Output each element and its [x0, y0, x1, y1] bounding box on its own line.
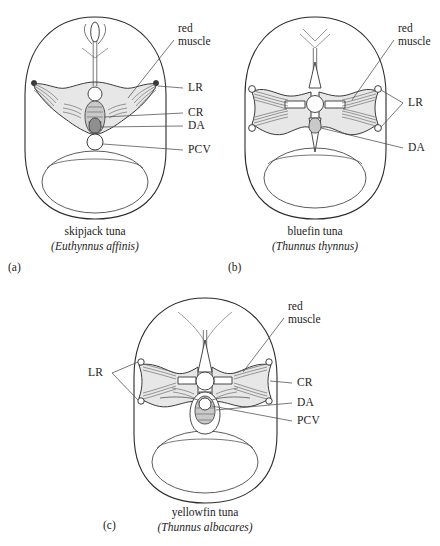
dorsal-aorta-b: [309, 118, 321, 133]
gut-cavity-c: [152, 431, 258, 493]
label-pcv-a: PCV: [188, 143, 211, 156]
panel-b-drawing: [245, 17, 403, 219]
panel-letter-c: (c): [103, 519, 116, 531]
dorsal-canal-a: [91, 22, 100, 42]
label-red-muscle-b: red muscle: [398, 22, 431, 48]
label-cr-c: CR: [297, 376, 313, 389]
panel-c-drawing: [112, 298, 292, 503]
panel-a-drawing: [25, 17, 183, 219]
panel-letter-a: (a): [8, 261, 21, 273]
label-red-muscle-a: red muscle: [178, 22, 211, 48]
label-da-c: DA: [297, 396, 314, 409]
label-da-a: DA: [188, 119, 205, 132]
label-da-b: DA: [408, 141, 425, 154]
lateral-process-right-b: [325, 101, 345, 108]
label-cr-a: CR: [188, 106, 204, 119]
label-red-muscle-c: red muscle: [288, 300, 321, 326]
lateral-process-left-b: [285, 101, 305, 108]
gut-cavity-b: [264, 148, 366, 208]
panel-letter-b: (b): [228, 261, 241, 273]
vertebral-canal-a: [88, 87, 102, 101]
figure-drawing: [0, 0, 440, 546]
label-pcv-c: PCV: [297, 414, 320, 427]
caption-scientific-name-b: (Thunnus thynnus): [240, 239, 390, 254]
caption-panel-a: skipjack tuna (Euthynnus affinis): [20, 224, 170, 253]
dorsal-aorta-a: [89, 118, 101, 133]
caption-scientific-name-a: (Euthynnus affinis): [20, 239, 170, 254]
lateral-process-right-c: [214, 377, 232, 384]
postcardinal-vein-c: [199, 398, 211, 410]
lateral-process-left-c: [178, 377, 196, 384]
vertebral-canal-b: [307, 96, 324, 113]
caption-common-name-b: bluefin tuna: [240, 224, 390, 239]
gut-cavity-a: [42, 151, 148, 213]
postcardinal-vein-a: [87, 134, 103, 150]
caption-common-name-a: skipjack tuna: [20, 224, 170, 239]
caption-common-name-c: yellowfin tuna: [130, 505, 280, 520]
caption-panel-b: bluefin tuna (Thunnus thynnus): [240, 224, 390, 253]
caption-scientific-name-c: (Thunnus albacares): [130, 520, 280, 535]
caption-panel-c: yellowfin tuna (Thunnus albacares): [130, 505, 280, 534]
label-lr-b: LR: [408, 96, 423, 109]
figure-root: red muscle LR CR DA PCV skipjack tuna (E…: [0, 0, 440, 546]
label-lr-c: LR: [88, 366, 103, 379]
label-lr-a: LR: [188, 81, 203, 94]
vertebral-canal-c: [196, 372, 214, 390]
